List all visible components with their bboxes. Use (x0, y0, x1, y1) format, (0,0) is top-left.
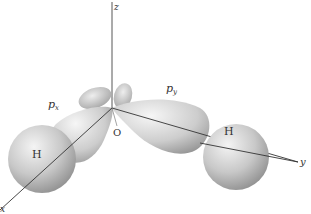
py-label-sub: y (173, 88, 177, 96)
px-label-sub: x (55, 104, 59, 112)
x-axis-label: x (0, 205, 5, 214)
hydrogen-right-label: H (224, 126, 234, 137)
origin-label: O (113, 128, 121, 138)
hydrogen-left-label: H (32, 149, 42, 160)
hydrogen-right-sphere (203, 124, 269, 190)
px-label: px (48, 99, 59, 112)
hydrogen-left-sphere (8, 125, 76, 193)
y-axis-label: y (300, 157, 306, 167)
py-label-main: p (166, 82, 173, 95)
py-label: py (166, 83, 177, 96)
z-axis-label: z (114, 3, 119, 12)
water-molecule-orbital-diagram (0, 0, 311, 214)
px-label-main: p (48, 98, 55, 111)
py-main-lobe (112, 100, 209, 154)
